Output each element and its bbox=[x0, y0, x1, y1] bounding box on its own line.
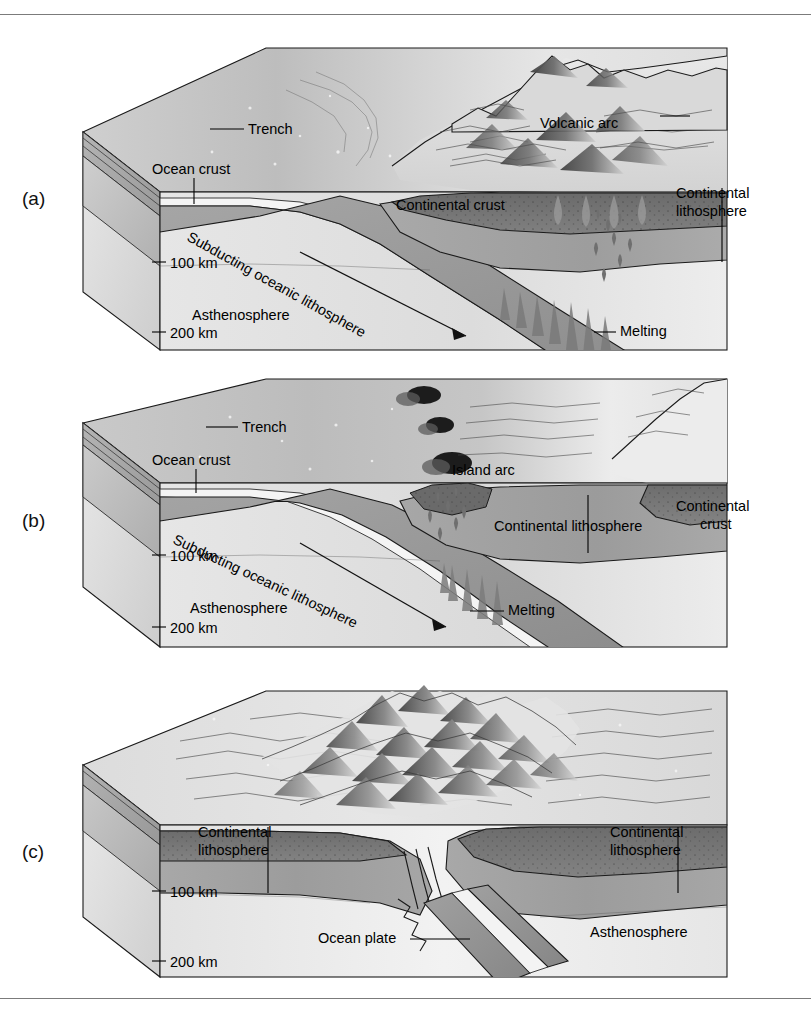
label-trench: Trench bbox=[248, 121, 293, 137]
label-volcanic-arc: Volcanic arc bbox=[540, 115, 618, 131]
figure-plate-convergence: Trench Volcanic arc Ocean crust Continen… bbox=[0, 0, 811, 1015]
label-continental-lithosphere-b: Continental lithosphere bbox=[494, 518, 642, 534]
label-cont-lith-left-line1: Continental bbox=[198, 824, 271, 840]
depth-mark-100: 100 km bbox=[170, 255, 218, 271]
panel-letter-c: (c) bbox=[22, 841, 44, 863]
label-cont-lith-left-line2: lithosphere bbox=[198, 842, 269, 858]
depth-mark-200-b: 200 km bbox=[170, 620, 218, 636]
bottom-divider-rule bbox=[0, 998, 811, 999]
depth-mark-100-c: 100 km bbox=[170, 884, 218, 900]
label-continental-crust-b-line1: Continental bbox=[676, 498, 749, 514]
label-cont-lith-right-line1: Continental bbox=[610, 824, 683, 840]
label-melting-b: Melting bbox=[508, 602, 555, 618]
label-continental-crust-b-line2: crust bbox=[700, 516, 731, 532]
panel-letter-b: (b) bbox=[22, 510, 45, 532]
label-asthenosphere: Asthenosphere bbox=[192, 307, 290, 323]
panel-letter-a: (a) bbox=[22, 188, 45, 210]
label-asthenosphere-c: Asthenosphere bbox=[590, 924, 688, 940]
label-ocean-plate: Ocean plate bbox=[318, 930, 396, 946]
top-divider-rule bbox=[0, 14, 811, 15]
depth-mark-200-c: 200 km bbox=[170, 954, 218, 970]
label-asthenosphere-b: Asthenosphere bbox=[190, 600, 288, 616]
panel-c-continent-collision: Continental lithosphere Continental lith… bbox=[0, 655, 811, 985]
depth-mark-200: 200 km bbox=[170, 325, 218, 341]
depth-mark-100-b: 100 km bbox=[170, 548, 218, 564]
label-ocean-crust: Ocean crust bbox=[152, 161, 230, 177]
label-continental-lithosphere-line2: lithosphere bbox=[676, 203, 747, 219]
label-continental-lithosphere-line1: Continental bbox=[676, 185, 749, 201]
label-melting: Melting bbox=[620, 323, 667, 339]
label-continental-crust: Continental crust bbox=[396, 197, 505, 213]
label-trench-b: Trench bbox=[242, 419, 287, 435]
label-island-arc: Island arc bbox=[452, 462, 515, 478]
panel-b-ocean-ocean: Trench Island arc Ocean crust Continenta… bbox=[0, 365, 811, 655]
label-ocean-crust-b: Ocean crust bbox=[152, 452, 230, 468]
label-cont-lith-right-line2: lithosphere bbox=[610, 842, 681, 858]
panel-a-ocean-continent: Trench Volcanic arc Ocean crust Continen… bbox=[0, 20, 811, 360]
